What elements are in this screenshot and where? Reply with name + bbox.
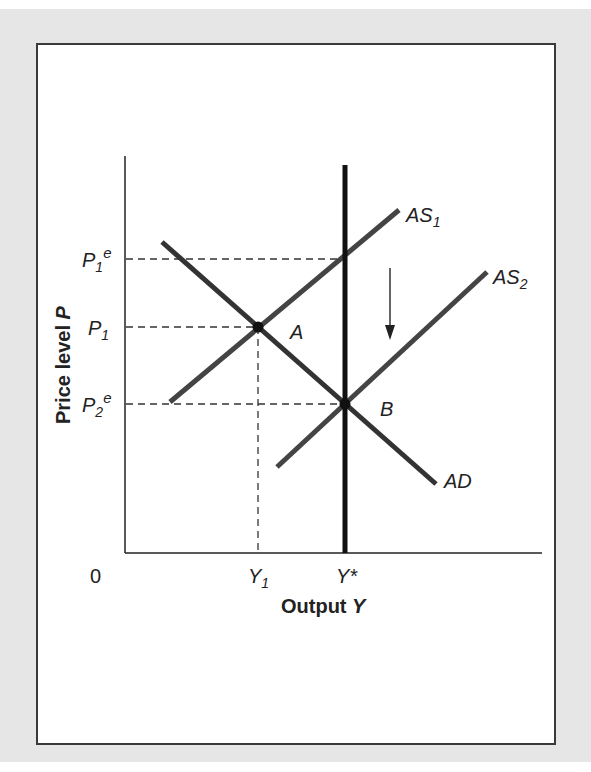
origin-label: 0 <box>90 565 101 587</box>
point-a-marker <box>253 322 264 333</box>
label-point-a: A <box>289 321 303 343</box>
tick-p1e: P1e <box>82 244 111 275</box>
label-point-b: B <box>380 398 393 420</box>
label-as2: AS2 <box>492 266 528 292</box>
tick-y1: Y1 <box>248 565 269 591</box>
y-axis-title: Price level P <box>52 305 74 424</box>
arrow-down-icon <box>385 325 395 340</box>
label-ad: AD <box>443 470 472 492</box>
x-axis-title: Output Y <box>281 595 367 617</box>
tick-p2e: P2e <box>82 389 111 420</box>
ad-as-chart: P1e P1 P2e 0 Y1 Y* AS1 AS2 AD A B Output… <box>0 0 591 772</box>
as1-curve <box>170 210 399 402</box>
label-as1: AS1 <box>405 204 440 230</box>
tick-p1: P1 <box>88 317 109 343</box>
tick-ystar: Y* <box>336 565 358 587</box>
point-b-marker <box>340 399 351 410</box>
